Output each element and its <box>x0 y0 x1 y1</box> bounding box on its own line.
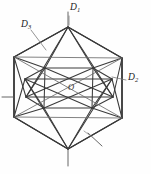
edge-base-r <box>68 79 112 149</box>
edge-base-hexr <box>68 118 122 149</box>
icosahedron-figure: D1 D3 D2 O <box>0 0 151 174</box>
d2-leader-line <box>112 77 126 80</box>
center-point-label: O <box>68 83 74 92</box>
d3-axis-tick-cross <box>84 131 92 137</box>
lower-ring-chain <box>14 108 122 118</box>
edge-apex-hexr <box>68 27 122 58</box>
d3-axis-marker-lower-right <box>88 133 102 146</box>
belt-edge-2 <box>14 79 25 117</box>
five-fold-axis-label: D1 <box>70 3 80 13</box>
three-fold-axis-label: D3 <box>21 20 31 30</box>
edge-base-hexl <box>14 117 68 149</box>
upper-horizontal-chord <box>14 57 122 58</box>
belt-edge-4 <box>112 79 122 118</box>
lower-horizontal-chord <box>14 117 122 118</box>
two-fold-axis-label: D2 <box>128 73 138 83</box>
belt-edge-8 <box>93 68 112 79</box>
symmetry-axis-stubs <box>2 12 102 166</box>
